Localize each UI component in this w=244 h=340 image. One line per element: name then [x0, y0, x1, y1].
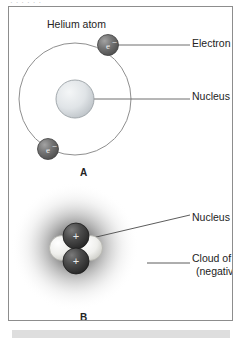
label-electron: Electron — [192, 37, 231, 49]
label-nucleus-a: Nucleus — [192, 90, 230, 102]
nucleus-sphere-a — [56, 80, 94, 118]
figure-panel: e – e – + — [8, 6, 233, 321]
label-cloud-line1: Cloud of electrons — [192, 252, 233, 265]
proton-bottom: + — [63, 248, 89, 274]
diagram-b-group: + + — [11, 183, 190, 311]
proton-top: + — [63, 223, 89, 249]
label-nucleus-b: Nucleus — [192, 211, 230, 223]
proton-symbol-top: + — [73, 230, 79, 242]
electron-sphere-bottom: e – — [38, 139, 59, 160]
top-cutoff-text: · · · · · · — [10, 0, 130, 5]
proton-symbol-bottom: + — [73, 255, 79, 267]
electron-symbol-bottom: e — [46, 145, 50, 155]
panel-label-b: B — [80, 312, 87, 321]
bottom-grey-strip — [12, 330, 230, 338]
electron-symbol-top: e — [106, 41, 110, 51]
electron-sphere-top: e – — [98, 35, 119, 56]
label-cloud-line2: (negative charges) — [192, 265, 233, 278]
label-electron-cloud: Cloud of electrons (negative charges) — [192, 252, 233, 277]
atom-figure: · · · · · · — [0, 0, 244, 340]
helium-atom-title: Helium atom — [47, 18, 106, 30]
diagram-a-group: e – e – — [19, 35, 190, 160]
panel-label-a: A — [80, 167, 87, 178]
